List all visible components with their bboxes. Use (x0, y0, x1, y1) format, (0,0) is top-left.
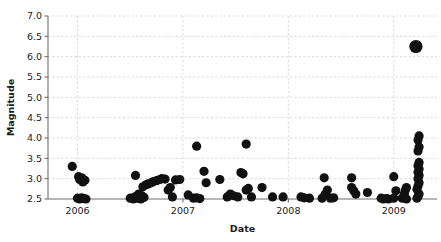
data-point (199, 167, 208, 176)
y-axis-title: Magnitude (5, 79, 16, 136)
chart-figure: 2.53.03.54.04.55.05.56.06.57.02006200720… (0, 0, 441, 242)
data-point (414, 158, 423, 167)
data-point (81, 194, 90, 203)
data-point (391, 186, 400, 195)
data-point (347, 173, 356, 182)
data-point (68, 162, 77, 171)
data-point (168, 192, 177, 201)
data-point (175, 175, 184, 184)
data-point (402, 183, 411, 192)
data-point (131, 171, 140, 180)
data-point (257, 183, 266, 192)
x-tick-label-2006: 2006 (65, 205, 89, 216)
data-point (278, 192, 287, 201)
y-tick-label-5.0: 5.0 (27, 92, 42, 103)
data-point (323, 185, 332, 194)
data-point (242, 140, 251, 149)
data-point (233, 192, 242, 201)
data-point (351, 190, 360, 199)
y-tick-label-6.5: 6.5 (27, 31, 42, 42)
data-point (363, 188, 372, 197)
y-tick-label-3.5: 3.5 (27, 153, 42, 164)
x-tick-label-2007: 2007 (171, 205, 195, 216)
data-point (80, 176, 89, 185)
y-tick-label-4.5: 4.5 (27, 112, 42, 123)
data-point (192, 142, 201, 151)
data-point (215, 175, 224, 184)
data-point (166, 183, 175, 192)
data-point (139, 193, 148, 202)
data-point (247, 192, 256, 201)
data-point (160, 174, 169, 183)
data-point (409, 40, 422, 53)
x-axis-title: Date (230, 223, 255, 234)
data-point (320, 173, 329, 182)
y-tick-label-6.0: 6.0 (27, 51, 42, 62)
y-tick-label-2.5: 2.5 (27, 193, 42, 204)
data-point (244, 184, 253, 193)
data-point (268, 192, 277, 201)
data-point (414, 131, 423, 140)
scatter-plot: 2.53.03.54.04.55.05.56.06.57.02006200720… (0, 0, 441, 242)
data-point (202, 178, 211, 187)
data-point (195, 194, 204, 203)
y-tick-label-3.0: 3.0 (27, 173, 42, 184)
data-point (305, 194, 314, 203)
y-tick-label-7.0: 7.0 (27, 10, 42, 21)
y-tick-label-4.0: 4.0 (27, 132, 42, 143)
data-point (329, 193, 338, 202)
data-point (389, 172, 398, 181)
y-tick-label-5.5: 5.5 (27, 71, 42, 82)
x-tick-label-2008: 2008 (276, 205, 300, 216)
data-point (238, 169, 247, 178)
x-tick-label-2009: 2009 (382, 205, 406, 216)
